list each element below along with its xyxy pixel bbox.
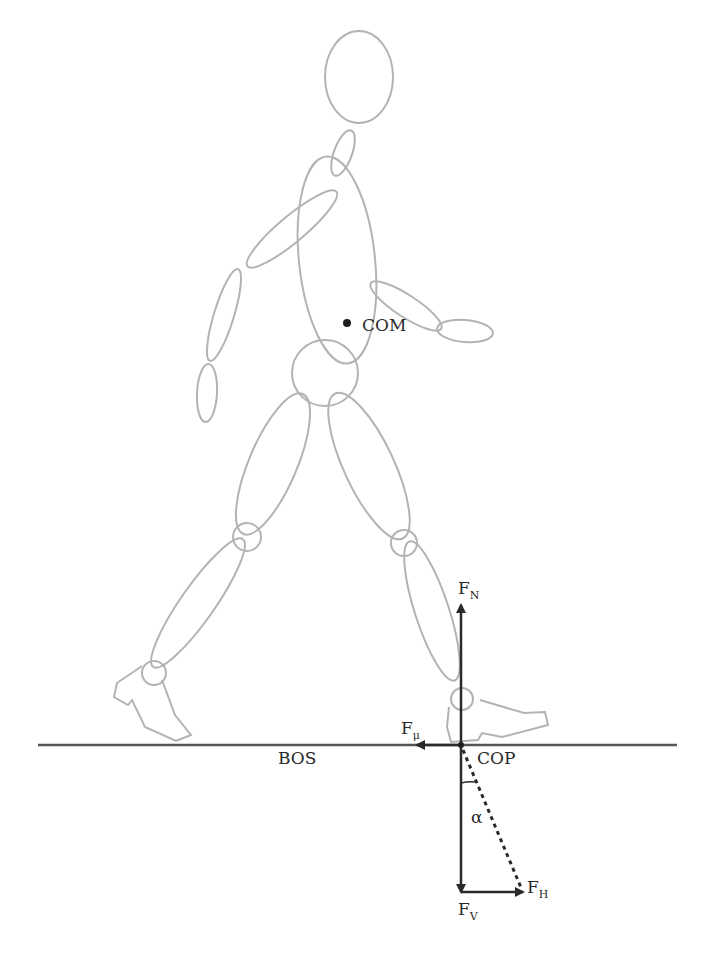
fv-label-main: F <box>458 899 470 919</box>
fv-label: FV <box>458 899 478 919</box>
diagram-canvas: COM BOS COP α FN Fμ FV FH <box>0 0 712 970</box>
right-shin <box>393 536 470 685</box>
left-upper-arm <box>239 182 345 276</box>
neck <box>326 127 359 178</box>
left-forearm <box>200 266 247 364</box>
alpha-angle-arc <box>461 782 475 783</box>
fh-label-main: F <box>527 877 539 897</box>
alpha-label: α <box>471 807 482 827</box>
fn-label: FN <box>458 578 479 598</box>
cop-label: COP <box>477 748 515 768</box>
right-thigh <box>313 383 426 549</box>
cop-dot <box>458 742 464 748</box>
fv-label-sub: V <box>470 910 478 923</box>
bos-label: BOS <box>278 748 316 768</box>
figure-drawing <box>0 0 712 970</box>
fh-label: FH <box>527 877 548 897</box>
com-label: COM <box>362 315 406 335</box>
left-knee <box>233 523 261 551</box>
fmu-label: Fμ <box>401 718 420 738</box>
fn-label-sub: N <box>470 589 480 602</box>
fh-label-sub: H <box>539 888 549 901</box>
head <box>325 31 393 123</box>
left-thigh <box>221 385 325 544</box>
fn-label-main: F <box>458 578 470 598</box>
right-hand <box>436 318 494 345</box>
left-hand <box>195 364 218 423</box>
fmu-label-sub: μ <box>413 729 420 742</box>
left-shin <box>139 529 256 676</box>
left-foot <box>114 666 191 741</box>
torso <box>288 153 385 368</box>
com-dot <box>343 319 351 327</box>
fmu-label-main: F <box>401 718 413 738</box>
